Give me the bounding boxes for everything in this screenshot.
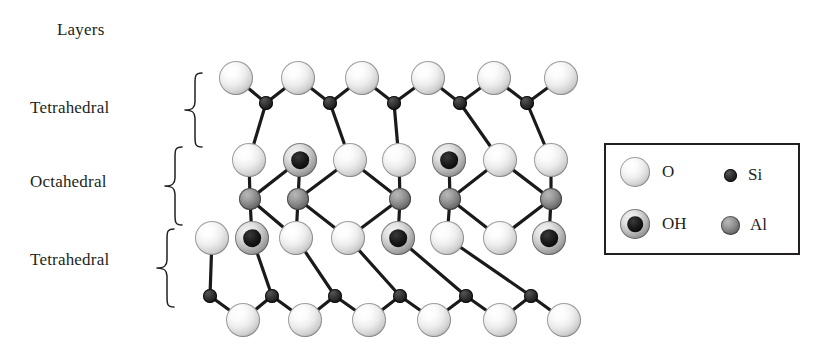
oxygen-atom xyxy=(417,303,451,337)
figure-root: Layers Tetrahedral Octahedral Tetrahedra… xyxy=(0,0,819,350)
legend-item-oxygen: O xyxy=(620,157,674,187)
silicon-atom xyxy=(520,96,534,110)
oxygen-atom xyxy=(547,303,581,337)
silicon-atom xyxy=(459,289,473,303)
silicon-atom xyxy=(524,289,538,303)
aluminium-sphere-icon xyxy=(721,216,740,235)
hydroxyl-atom xyxy=(381,221,415,255)
oxygen-atom xyxy=(345,61,379,95)
legend-item-hydroxyl: OH xyxy=(620,209,687,239)
oxygen-atom xyxy=(483,303,517,337)
hydroxyl-atom xyxy=(532,221,566,255)
legend-label-aluminium: Al xyxy=(750,215,767,235)
aluminium-atom xyxy=(239,188,261,210)
oxygen-atom xyxy=(226,303,260,337)
silicon-atom xyxy=(265,289,279,303)
silicon-atom xyxy=(203,289,217,303)
hydroxyl-sphere-icon xyxy=(620,209,650,239)
hydroxyl-atom xyxy=(235,221,269,255)
legend-box: O Si OH Al xyxy=(604,143,800,255)
legend-item-silicon: Si xyxy=(724,165,762,185)
hydroxyl-atom xyxy=(432,143,466,177)
silicon-atom xyxy=(453,96,467,110)
oxygen-atom xyxy=(279,221,313,255)
oxygen-atom xyxy=(483,143,517,177)
silicon-atom xyxy=(328,289,342,303)
legend-label-hydroxyl: OH xyxy=(662,214,687,234)
silicon-sphere-icon xyxy=(724,169,737,182)
oxygen-atom xyxy=(544,61,578,95)
oxygen-atom xyxy=(331,221,365,255)
silicon-atom xyxy=(387,96,401,110)
oxygen-atom xyxy=(477,61,511,95)
silicon-atom xyxy=(393,289,407,303)
oxygen-atom xyxy=(352,303,386,337)
hydroxyl-atom xyxy=(283,143,317,177)
oxygen-atom xyxy=(232,143,266,177)
aluminium-atom xyxy=(540,188,562,210)
aluminium-atom xyxy=(439,188,461,210)
oxygen-atom xyxy=(534,143,568,177)
oxygen-atom xyxy=(281,61,315,95)
oxygen-atom xyxy=(382,143,416,177)
aluminium-atom xyxy=(389,188,411,210)
oxygen-atom xyxy=(195,221,229,255)
silicon-atom xyxy=(259,96,273,110)
aluminium-atom xyxy=(287,188,309,210)
legend-label-oxygen: O xyxy=(662,162,674,182)
legend-item-aluminium: Al xyxy=(721,215,767,235)
oxygen-atom xyxy=(333,143,367,177)
oxygen-sphere-icon xyxy=(620,157,650,187)
oxygen-atom xyxy=(430,221,464,255)
legend-label-silicon: Si xyxy=(748,165,762,185)
oxygen-atom xyxy=(288,303,322,337)
oxygen-atom xyxy=(483,221,517,255)
oxygen-atom xyxy=(219,61,253,95)
silicon-atom xyxy=(323,96,337,110)
oxygen-atom xyxy=(411,61,445,95)
